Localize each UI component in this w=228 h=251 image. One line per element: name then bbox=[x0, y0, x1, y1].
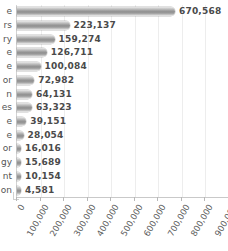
x-tick-mark bbox=[63, 197, 64, 201]
bar bbox=[17, 7, 175, 16]
x-tick-label: 100,000 bbox=[25, 203, 50, 238]
bar-row: 28,054 bbox=[17, 128, 228, 142]
bar-value-label: 16,016 bbox=[25, 144, 61, 153]
bar-row: 64,131 bbox=[17, 87, 228, 101]
bar-value-label: 100,084 bbox=[45, 62, 87, 71]
x-tick-mark bbox=[110, 197, 111, 201]
category-label: e bbox=[6, 46, 12, 60]
bar-value-label: 159,274 bbox=[59, 35, 101, 44]
x-tick-mark bbox=[157, 197, 158, 201]
bar-value-label: 223,137 bbox=[74, 21, 116, 30]
bar-value-label: 63,323 bbox=[36, 103, 72, 112]
bar bbox=[17, 21, 70, 30]
bar-row: 126,711 bbox=[17, 46, 228, 60]
bar-row: 72,982 bbox=[17, 74, 228, 88]
bar bbox=[17, 158, 21, 167]
category-label: rs bbox=[4, 19, 12, 33]
x-axis-line bbox=[16, 197, 228, 198]
bar bbox=[17, 172, 21, 181]
category-axis-labels: ersryeeorneseeorgynton bbox=[0, 5, 14, 197]
category-label: ry bbox=[3, 32, 12, 46]
x-tick-mark bbox=[40, 197, 41, 201]
x-tick-mark bbox=[181, 197, 182, 201]
category-label: or bbox=[3, 74, 12, 88]
x-tick-label: 400,000 bbox=[96, 203, 121, 238]
category-label: gy bbox=[1, 156, 12, 170]
category-label: e bbox=[6, 128, 12, 142]
bar-value-label: 28,054 bbox=[28, 131, 64, 140]
bar-row: 63,323 bbox=[17, 101, 228, 115]
x-tick-mark bbox=[87, 197, 88, 201]
bar-row: 670,568 bbox=[17, 5, 228, 19]
plot-area: 670,568223,137159,274126,711100,08472,98… bbox=[16, 5, 228, 197]
bar bbox=[17, 103, 32, 112]
bar-value-label: 126,711 bbox=[51, 48, 93, 57]
x-tick-mark bbox=[16, 197, 17, 201]
bar-row: 15,689 bbox=[17, 156, 228, 170]
bar bbox=[17, 117, 26, 126]
bar bbox=[17, 131, 24, 140]
category-label: e bbox=[6, 60, 12, 74]
x-tick-label: 200,000 bbox=[49, 203, 74, 238]
bar-row: 223,137 bbox=[17, 19, 228, 33]
bar-row: 159,274 bbox=[17, 32, 228, 46]
bar bbox=[17, 62, 41, 71]
bar-row: 4,581 bbox=[17, 183, 228, 197]
x-tick-label: 900,000 bbox=[213, 203, 228, 238]
category-label: e bbox=[6, 115, 12, 129]
bar bbox=[17, 144, 21, 153]
x-tick-label: 0 bbox=[16, 203, 26, 212]
bar-value-label: 670,568 bbox=[179, 7, 221, 16]
category-label: n bbox=[6, 87, 12, 101]
x-tick-label: 600,000 bbox=[143, 203, 168, 238]
category-label: nt bbox=[3, 170, 12, 184]
x-tick-mark bbox=[204, 197, 205, 201]
category-label: es bbox=[2, 101, 12, 115]
x-tick-label: 800,000 bbox=[190, 203, 215, 238]
bar-value-label: 72,982 bbox=[38, 76, 74, 85]
bar-row: 16,016 bbox=[17, 142, 228, 156]
category-label: on bbox=[1, 183, 12, 197]
bar-value-label: 10,154 bbox=[25, 172, 61, 181]
category-label: e bbox=[6, 5, 12, 19]
bar bbox=[17, 35, 55, 44]
x-tick-mark bbox=[134, 197, 135, 201]
horizontal-bar-chart: ersryeeorneseeorgynton 670,568223,137159… bbox=[0, 0, 228, 251]
bar-value-label: 15,689 bbox=[25, 158, 61, 167]
bar-value-label: 4,581 bbox=[25, 186, 54, 195]
bar-row: 10,154 bbox=[17, 170, 228, 184]
bar-value-label: 39,151 bbox=[30, 117, 66, 126]
bar bbox=[17, 90, 32, 99]
bar bbox=[17, 48, 47, 57]
bar-row: 100,084 bbox=[17, 60, 228, 74]
bar bbox=[17, 76, 34, 85]
category-label: or bbox=[3, 142, 12, 156]
bar-value-label: 64,131 bbox=[36, 90, 72, 99]
bar-row: 39,151 bbox=[17, 115, 228, 129]
